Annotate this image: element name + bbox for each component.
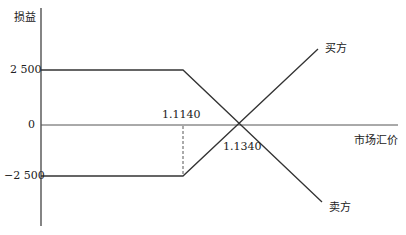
tick-0: 0	[28, 118, 35, 131]
tick-neg-2500: −2 500	[4, 169, 45, 182]
buyer-label: 买方	[325, 39, 347, 55]
y-axis-label: 损益	[14, 8, 36, 24]
seller-line	[41, 70, 322, 202]
tick-2500: 2 500	[10, 63, 42, 76]
strike-label: 1.1140	[162, 108, 201, 121]
seller-label: 卖方	[329, 198, 351, 214]
breakeven-label: 1.1340	[223, 140, 262, 153]
x-axis-label: 市场汇价	[354, 131, 398, 147]
